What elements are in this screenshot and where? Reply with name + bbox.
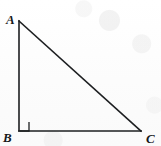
hypotenuse-AC-line [19, 21, 141, 131]
geometry-figure: A B C [0, 0, 161, 146]
right-triangle-diagram [0, 0, 161, 146]
right-angle-marker-icon [20, 122, 29, 131]
vertex-label-a: A [6, 13, 15, 26]
vertex-label-c: C [146, 132, 155, 145]
vertex-label-b: B [3, 131, 12, 144]
